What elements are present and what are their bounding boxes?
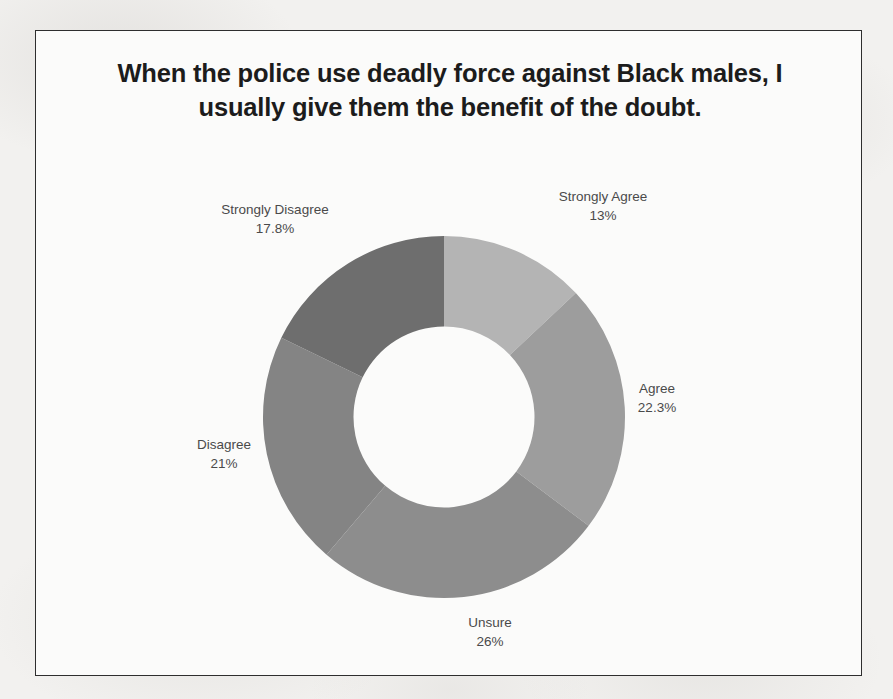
slide-frame: When the police use deadly force against… — [35, 30, 862, 676]
slice-label-strongly-agree: Strongly Agree 13% — [523, 188, 683, 225]
slice-label-strongly-agree-name: Strongly Agree — [523, 188, 683, 207]
donut-chart: Strongly Agree 13% Agree 22.3% Unsure 26… — [36, 31, 863, 677]
slice-label-disagree-name: Disagree — [159, 436, 289, 455]
donut-chart-svg — [36, 31, 863, 677]
slice-label-unsure-value: 26% — [430, 633, 550, 652]
slice-label-agree: Agree 22.3% — [597, 380, 717, 417]
slice-label-strongly-disagree-name: Strongly Disagree — [185, 201, 365, 220]
slice-label-strongly-agree-value: 13% — [523, 207, 683, 226]
donut-slices — [263, 236, 625, 598]
slice-label-agree-name: Agree — [597, 380, 717, 399]
slice-label-disagree-value: 21% — [159, 455, 289, 474]
slice-label-strongly-disagree: Strongly Disagree 17.8% — [185, 201, 365, 238]
slice-label-unsure: Unsure 26% — [430, 614, 550, 651]
slice-label-agree-value: 22.3% — [597, 399, 717, 418]
slice-label-unsure-name: Unsure — [430, 614, 550, 633]
slice-label-strongly-disagree-value: 17.8% — [185, 220, 365, 239]
slice-label-disagree: Disagree 21% — [159, 436, 289, 473]
